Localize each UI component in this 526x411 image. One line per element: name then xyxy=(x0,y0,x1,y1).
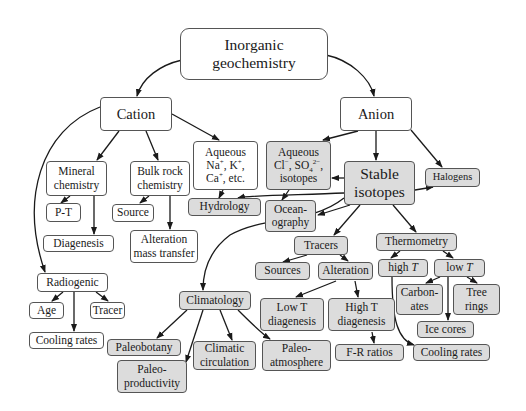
node-tree-rings: Tree rings xyxy=(453,284,500,315)
node-high-t-diagenesis: High T diagenesis xyxy=(328,298,395,331)
node-alteration-mass-transfer: Alteration mass transfer xyxy=(130,230,198,263)
node-anion: Anion xyxy=(340,97,412,131)
node-alteration: Alteration xyxy=(318,262,373,280)
node-paleobotany: Paleobotany xyxy=(107,339,181,356)
node-aqueous-cations: Aqueous Na+, K+, Ca+, etc. xyxy=(193,141,258,190)
concept-map: Inorganic geochemistry Cation Anion Mine… xyxy=(0,0,526,411)
node-carbonates: Carbon- ates xyxy=(396,284,443,315)
node-climatology: Climatology xyxy=(179,291,251,310)
node-stable-isotopes: Stable isotopes xyxy=(344,161,415,205)
node-cooling-rates-radiogenic: Cooling rates xyxy=(29,332,104,349)
node-sources: Sources xyxy=(255,262,310,280)
node-diagenesis: Diagenesis xyxy=(43,235,114,252)
node-cooling-rates-thermometry: Cooling rates xyxy=(413,344,490,361)
node-radiogenic: Radiogenic xyxy=(37,273,108,292)
node-mineral-chemistry: Mineral chemistry xyxy=(46,161,107,196)
node-bulk-rock-chemistry: Bulk rock chemistry xyxy=(130,161,190,196)
node-low-t: low T xyxy=(434,259,485,277)
node-tracer: Tracer xyxy=(90,302,125,319)
node-aqueous-anions: Aqueous Cl−, SO42−, isotopes xyxy=(266,141,331,190)
node-ice-cores: Ice cores xyxy=(417,321,474,338)
node-high-t: high T xyxy=(378,259,428,277)
aqueous-cations-formula-2: Ca+, etc. xyxy=(206,172,245,185)
node-halogens: Halogens xyxy=(425,168,480,187)
aqueous-anions-formula: Cl−, SO42−, xyxy=(274,159,323,172)
node-f-r-ratios: F-R ratios xyxy=(335,344,404,361)
node-thermometry: Thermometry xyxy=(376,233,457,251)
node-inorganic-geochemistry: Inorganic geochemistry xyxy=(180,28,328,80)
aqueous-cations-formula: Na+, K+, xyxy=(206,159,244,172)
node-tracers: Tracers xyxy=(294,236,348,255)
node-oceanography: Ocean- ography xyxy=(265,200,316,232)
node-age: Age xyxy=(29,302,64,319)
node-climatic-circulation: Climatic circulation xyxy=(193,341,256,370)
node-low-t-diagenesis: Low T diagenesis xyxy=(260,298,324,331)
node-paleo-atmosphere: Paleo- atmosphere xyxy=(262,340,331,371)
node-paleo-productivity: Paleo- productivity xyxy=(117,360,187,393)
node-cation: Cation xyxy=(100,97,172,131)
node-p-t: P-T xyxy=(46,203,81,222)
node-source: Source xyxy=(112,204,154,222)
node-hydrology: Hydrology xyxy=(188,198,261,216)
